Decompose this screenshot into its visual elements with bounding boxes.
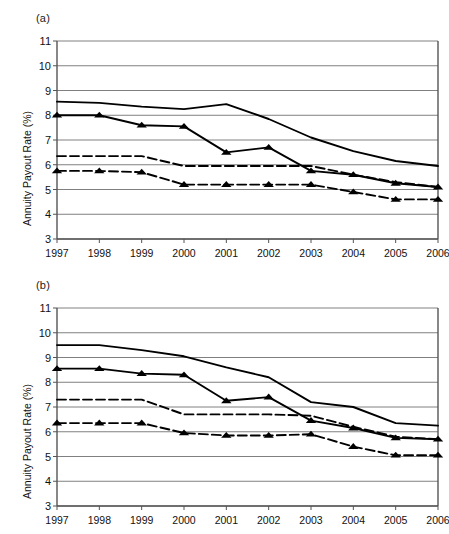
y-axis-tick-label: 5 [45, 451, 51, 463]
plot-area-a: 3456789101119971998199920002001200220032… [0, 0, 449, 267]
x-axis-tick-label: 2005 [384, 247, 408, 259]
x-axis-tick-label: 2003 [299, 514, 323, 526]
plot-area-b: 3456789101119971998199920002001200220032… [0, 267, 449, 534]
series-line-dashed-no-marker [57, 400, 438, 440]
y-axis-tick-label: 3 [45, 233, 51, 245]
y-axis-tick-label: 7 [45, 401, 51, 413]
y-axis-tick-label: 11 [40, 302, 51, 314]
x-axis-tick-label: 2002 [257, 247, 281, 259]
x-axis-tick-label: 2006 [426, 247, 449, 259]
series-line-dashed-triangle-marker [57, 423, 438, 455]
y-axis-tick-label: 4 [45, 208, 51, 220]
series-line-dashed-triangle-marker [57, 171, 438, 200]
x-axis-tick-label: 2002 [257, 514, 281, 526]
annuity-payout-rate-figure: (a) Annuity Payout Rate (%) 345678910111… [0, 0, 449, 534]
x-axis-tick-label: 2000 [172, 514, 196, 526]
x-axis-tick-label: 1999 [130, 247, 154, 259]
y-axis-tick-label: 10 [39, 60, 51, 72]
y-axis-tick-label: 11 [40, 35, 51, 47]
y-axis-tick-label: 5 [45, 184, 51, 196]
x-axis-tick-label: 2004 [342, 247, 366, 259]
x-axis-tick-label: 1999 [130, 514, 154, 526]
x-axis-tick-label: 2001 [215, 247, 239, 259]
x-axis-tick-label: 2005 [384, 514, 408, 526]
x-axis-tick-label: 2001 [215, 514, 239, 526]
x-axis-tick-label: 1997 [45, 247, 69, 259]
y-axis-tick-label: 9 [45, 85, 51, 97]
y-axis-tick-label: 6 [45, 159, 51, 171]
x-axis-tick-label: 2000 [172, 247, 196, 259]
y-axis-tick-label: 8 [45, 376, 51, 388]
chart-panel-b: (b) Annuity Payout Rate (%) 345678910111… [0, 267, 449, 534]
y-axis-tick-label: 10 [39, 327, 51, 339]
y-axis-tick-label: 4 [45, 475, 51, 487]
series-line-solid-triangle-marker [57, 369, 438, 440]
x-axis-tick-label: 2003 [299, 247, 323, 259]
x-axis-tick-label: 2004 [342, 514, 366, 526]
y-axis-tick-label: 6 [45, 426, 51, 438]
y-axis-tick-label: 7 [45, 134, 51, 146]
x-axis-tick-label: 2006 [426, 514, 449, 526]
x-axis-tick-label: 1998 [88, 247, 112, 259]
y-axis-tick-label: 3 [45, 500, 51, 512]
x-axis-tick-label: 1998 [88, 514, 112, 526]
y-axis-tick-label: 9 [45, 352, 51, 364]
x-axis-tick-label: 1997 [45, 514, 69, 526]
series-line-solid-triangle-marker [57, 115, 438, 187]
y-axis-tick-label: 8 [45, 109, 51, 121]
chart-panel-a: (a) Annuity Payout Rate (%) 345678910111… [0, 0, 449, 267]
